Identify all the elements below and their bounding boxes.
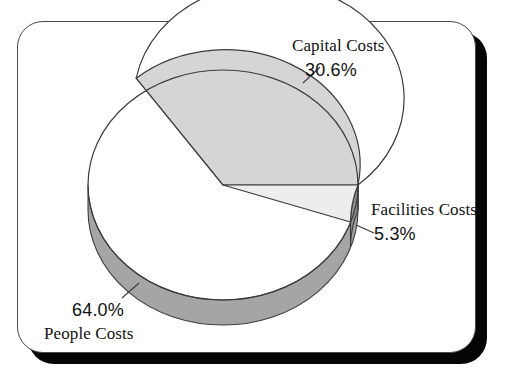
slice-value-capital-costs: 30.6% <box>305 60 357 81</box>
slice-label-people-costs: People Costs <box>44 324 134 344</box>
slice-value-facilities-costs: 5.3% <box>374 224 416 245</box>
slice-label-capital-costs: Capital Costs <box>292 36 384 56</box>
slice-label-facilities-costs: Facilities Costs <box>371 200 477 220</box>
slice-facilities-costs <box>223 185 358 222</box>
slice-value-people-costs: 64.0% <box>72 300 124 321</box>
chart-page: Capital Costs 30.6% Facilities Costs 5.3… <box>0 0 511 387</box>
leader-line-facilities <box>356 225 374 233</box>
